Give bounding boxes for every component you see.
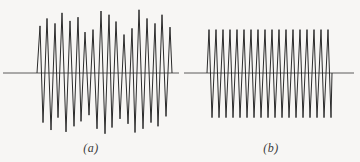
panel-a xyxy=(0,0,182,136)
caption-a: (a) xyxy=(0,141,182,156)
caption-b: (b) xyxy=(182,141,360,156)
waveform-a xyxy=(0,0,182,136)
panel-b xyxy=(182,0,360,136)
oscillogram-figure: (a) (b) xyxy=(0,0,360,162)
trace-path-a xyxy=(37,10,172,134)
trace-path-b xyxy=(207,30,332,118)
waveform-b xyxy=(182,0,360,136)
